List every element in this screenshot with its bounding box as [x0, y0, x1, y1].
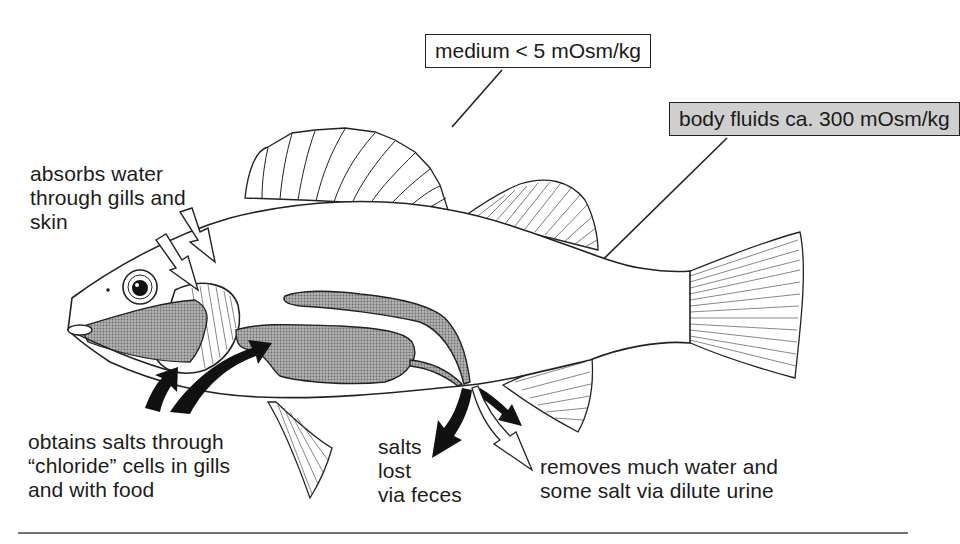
medium-leader-line — [452, 70, 502, 127]
spiny-dorsal-fin — [245, 128, 448, 210]
urine-excretion-label: removes much water and some salt via dil… — [540, 455, 778, 503]
body-fluids-osmolality-box: body fluids ca. 300 mOsm/kg — [669, 102, 960, 136]
nostril — [106, 288, 110, 292]
eye-icon — [123, 270, 157, 304]
feces-salt-loss-label: salts lost via feces — [378, 435, 462, 507]
lower-lip — [68, 325, 92, 335]
pelvic-fin — [268, 402, 332, 498]
water-absorption-label: absorbs water through gills and skin — [30, 162, 186, 234]
medium-osmolality-box: medium < 5 mOsm/kg — [425, 34, 651, 68]
salt-uptake-label: obtains salts through “chloride” cells i… — [28, 430, 230, 502]
caudal-fin — [688, 232, 803, 378]
